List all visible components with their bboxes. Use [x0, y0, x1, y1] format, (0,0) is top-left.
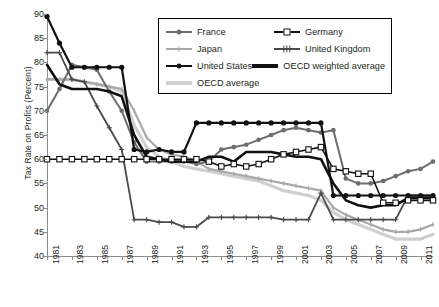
y-tick-label: 45: [18, 227, 44, 237]
legend-label: France: [197, 27, 226, 37]
x-tick-mark: [97, 256, 98, 260]
legend-item[interactable]: France: [166, 26, 274, 37]
legend-row: JapanUnited Kingdom: [166, 40, 385, 57]
x-tick-mark: [196, 256, 197, 260]
y-tick-mark: [43, 135, 47, 136]
x-tick-label: 1983: [75, 245, 85, 264]
y-tick-label: 50: [18, 203, 44, 213]
legend-dash-icon: [166, 43, 192, 54]
x-tick-mark: [246, 256, 247, 260]
x-tick-label: 2011: [424, 246, 434, 264]
y-tick-mark: [43, 232, 47, 233]
legend-item[interactable]: OECD weighted average: [252, 60, 385, 71]
legend-square-open-icon: [274, 26, 300, 37]
x-tick-label: 1981: [51, 245, 61, 264]
x-tick-mark: [147, 256, 148, 260]
x-tick-label: 2009: [399, 245, 409, 264]
legend-row: OECD average: [166, 74, 385, 91]
x-tick-label: 1989: [150, 245, 160, 264]
x-tick-mark: [371, 256, 372, 260]
legend-label: OECD average: [197, 78, 259, 88]
x-tick-label: 2001: [300, 245, 310, 264]
legend-item[interactable]: Germany: [274, 26, 343, 37]
x-tick-mark: [396, 256, 397, 260]
y-tick-label: 85: [18, 33, 44, 43]
legend-item[interactable]: OECD average: [166, 77, 274, 88]
y-tick-mark: [43, 111, 47, 112]
y-tick-mark: [43, 62, 47, 63]
legend-diamond-icon: [166, 26, 192, 37]
y-tick-label: 60: [18, 154, 44, 164]
x-tick-mark: [296, 256, 297, 260]
legend-label: United Kingdom: [305, 44, 370, 54]
legend-cross-icon: [274, 43, 300, 54]
x-tick-label: 2005: [349, 245, 359, 264]
chart-legend: FranceGermanyJapanUnited KingdomUnited S…: [158, 18, 392, 94]
legend-label: Japan: [197, 44, 222, 54]
legend-row: FranceGermany: [166, 23, 385, 40]
x-tick-mark: [346, 256, 347, 260]
x-tick-label: 1985: [100, 245, 110, 264]
legend-label: OECD weighted average: [283, 61, 385, 71]
y-tick-label: 40: [18, 251, 44, 261]
legend-item[interactable]: Japan: [166, 43, 274, 54]
y-tick-label: 65: [18, 130, 44, 140]
y-tick-mark: [43, 14, 47, 15]
y-tick-mark: [43, 183, 47, 184]
legend-line-icon: [252, 60, 278, 71]
x-tick-label: 1999: [275, 245, 285, 264]
y-tick-label: 55: [18, 178, 44, 188]
y-tick-label: 80: [18, 57, 44, 67]
y-tick-label: 75: [18, 82, 44, 92]
y-tick-label: 70: [18, 106, 44, 116]
legend-label: Germany: [305, 27, 343, 37]
x-tick-mark: [72, 256, 73, 260]
y-tick-mark: [43, 208, 47, 209]
x-tick-label: 1997: [250, 245, 260, 264]
tax-rate-line-chart: Tax Rate on Profits (Percent) 9085807570…: [0, 0, 439, 307]
x-tick-mark: [122, 256, 123, 260]
y-tick-mark: [43, 38, 47, 39]
y-tick-label: 90: [18, 9, 44, 19]
y-tick-mark: [43, 87, 47, 88]
legend-diamond-icon: [166, 60, 192, 71]
x-tick-mark: [47, 256, 48, 260]
x-tick-label: 2003: [324, 245, 334, 264]
x-tick-mark: [221, 256, 222, 260]
y-axis-tick-labels: 9085807570656055504540: [16, 0, 44, 307]
y-tick-mark: [43, 159, 47, 160]
x-tick-label: 1987: [125, 245, 135, 264]
legend-item[interactable]: United Kingdom: [274, 43, 370, 54]
x-tick-label: 2007: [374, 245, 384, 264]
x-tick-mark: [172, 256, 173, 260]
legend-item[interactable]: United States: [166, 60, 252, 71]
x-tick-label: 1993: [200, 245, 210, 264]
x-tick-mark: [421, 256, 422, 260]
x-tick-mark: [321, 256, 322, 260]
x-tick-mark: [271, 256, 272, 260]
x-tick-label: 1991: [175, 245, 185, 264]
legend-row: United StatesOECD weighted average: [166, 57, 385, 74]
legend-label: United States: [197, 61, 252, 71]
x-tick-label: 1995: [225, 245, 235, 264]
legend-line-icon: [166, 77, 192, 88]
